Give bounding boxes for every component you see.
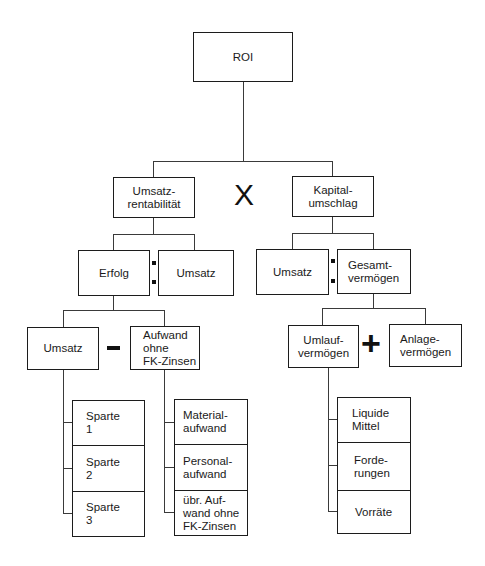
- connector-line: [322, 308, 323, 325]
- anlagevermoegen-box: Anlage- vermögen: [389, 324, 462, 367]
- umsatz-box: Umsatz: [27, 327, 99, 370]
- connector-line: [425, 308, 426, 324]
- connector-line: [332, 161, 333, 177]
- umlaufvermoegen-stack: Liquide Mittel Forde- rungen Vorräte: [337, 397, 411, 534]
- connector-line: [243, 81, 244, 162]
- connector-line: [153, 217, 154, 235]
- aufwand-stack: Material- aufwand Personal- aufwand übr.…: [174, 399, 248, 536]
- connector-line: [113, 234, 114, 250]
- connector-line: [328, 367, 329, 512]
- erfolg-box: Erfolg: [78, 250, 150, 296]
- connector-line: [153, 161, 154, 178]
- sparte-3: Sparte 3: [73, 491, 144, 536]
- divide-operator: [331, 259, 335, 263]
- plus-operator: +: [361, 326, 381, 360]
- divide-operator: [152, 280, 156, 284]
- materialaufwand: Material- aufwand: [175, 400, 247, 444]
- divide-operator: [331, 279, 335, 283]
- connector-line: [113, 295, 114, 311]
- umsatz-box: Umsatz: [256, 249, 329, 295]
- connector-line: [322, 308, 426, 309]
- connector-line: [194, 234, 195, 250]
- gesamtvermoegen-box: Gesamt- vermögen: [337, 249, 411, 294]
- divide-operator: [152, 261, 156, 265]
- roi-box: ROI: [193, 32, 293, 82]
- connector-line: [332, 217, 333, 234]
- connector-line: [373, 233, 374, 249]
- connector-line: [153, 161, 333, 162]
- connector-line: [292, 233, 293, 249]
- umsatz-box: Umsatz: [158, 250, 234, 296]
- forderungen: Forde- rungen: [338, 442, 410, 490]
- multiply-operator: X: [234, 180, 254, 210]
- connector-line: [292, 233, 374, 234]
- sparte-2: Sparte 2: [73, 445, 144, 491]
- minus-operator: [107, 346, 120, 350]
- connector-line: [373, 293, 374, 309]
- aufwand-ohne-fk-zinsen-box: Aufwand ohne FK-Zinsen: [130, 326, 200, 370]
- sparten-stack: Sparte 1 Sparte 2 Sparte 3: [72, 400, 145, 537]
- kapitalumschlag-box: Kapital- umschlag: [292, 176, 374, 217]
- connector-line: [63, 310, 64, 327]
- sparte-1: Sparte 1: [73, 401, 144, 445]
- liquide-mittel: Liquide Mittel: [338, 398, 410, 442]
- connector-line: [164, 310, 165, 326]
- connector-line: [164, 369, 165, 513]
- connector-line: [113, 234, 195, 235]
- uebriger-aufwand: übr. Auf- wand ohne FK-Zinsen: [175, 490, 247, 535]
- connector-line: [63, 310, 165, 311]
- vorraete: Vorräte: [338, 490, 410, 533]
- umlaufvermoegen-box: Umlauf- vermögen: [288, 325, 359, 368]
- personalaufwand: Personal- aufwand: [175, 444, 247, 490]
- umsatzrentabilitaet-box: Umsatz- rentabilität: [113, 177, 195, 218]
- connector-line: [63, 369, 64, 513]
